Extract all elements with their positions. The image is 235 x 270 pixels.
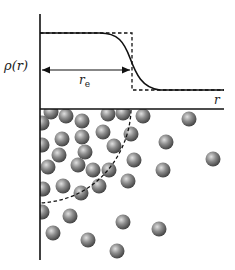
particle (156, 163, 171, 178)
particle (74, 186, 89, 201)
particle (92, 179, 107, 194)
particle (75, 114, 90, 129)
particle (55, 132, 70, 147)
particle (107, 139, 122, 154)
particle (110, 244, 125, 259)
particle (159, 135, 174, 150)
particle (52, 148, 67, 163)
particle (46, 226, 61, 241)
particle (59, 109, 74, 124)
density-axis-label: ρ(r) (3, 58, 28, 73)
particle (35, 205, 50, 220)
particle (116, 106, 131, 121)
particle (206, 152, 221, 167)
particle (96, 125, 111, 140)
particle (81, 233, 96, 248)
particle (63, 209, 78, 224)
radius-label: re (79, 73, 90, 89)
particle (124, 127, 139, 142)
particles-group (35, 105, 221, 259)
particle (86, 163, 101, 178)
particle (121, 174, 136, 189)
particle (152, 222, 167, 237)
particle (182, 112, 197, 127)
r-axis-label: r (214, 93, 221, 107)
particle (35, 138, 50, 153)
particle (136, 109, 151, 124)
particle (56, 179, 71, 194)
particle (41, 160, 56, 175)
particle (78, 145, 93, 160)
particle (71, 158, 86, 173)
particle (116, 215, 131, 230)
particle (36, 182, 51, 197)
particle (75, 130, 90, 145)
particle (127, 153, 142, 168)
density-profile-diagram: ρ(r) r re (0, 0, 235, 270)
particle (35, 116, 50, 131)
